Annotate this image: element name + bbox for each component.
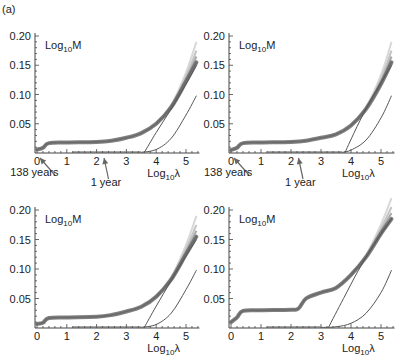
y-tick-label: 0.05 [10, 118, 31, 130]
annotation-138-years: 138 years [10, 166, 59, 178]
x-tick-label: 1 [258, 155, 264, 167]
y-tick-label: 0.10 [204, 263, 225, 275]
x-tick-label: 3 [123, 155, 129, 167]
y-tick-label: 0.10 [204, 89, 225, 101]
y-tick-label: 0.15 [204, 59, 225, 71]
x-tick-label: 3 [318, 330, 324, 342]
arrowhead-icon [297, 158, 303, 164]
data-spread [351, 198, 392, 275]
panel-label: (a) [2, 3, 15, 15]
annotation-1-year: 1 year [91, 176, 122, 188]
x-tick-label: 5 [378, 330, 384, 342]
x-tick-label: 3 [123, 330, 129, 342]
y-axis-label: Log10M [239, 213, 275, 228]
y-tick-label: 0.20 [204, 204, 225, 216]
y-tick-label: 0.05 [204, 118, 225, 130]
y-tick-label: 0.05 [10, 293, 31, 305]
x-tick-label: 2 [94, 330, 100, 342]
y-tick-label: 0.15 [204, 234, 225, 246]
x-tick-label: 5 [183, 330, 189, 342]
arrowhead-icon [102, 158, 108, 164]
y-axis-label: Log10M [45, 213, 81, 228]
x-axis-label: Log10λ [147, 167, 180, 182]
y-tick-label: 0.15 [10, 59, 31, 71]
y-tick-label: 0.20 [10, 204, 31, 216]
x-tick-label: 2 [94, 155, 100, 167]
y-axis-label: Log10M [239, 39, 275, 54]
x-axis-label: Log10λ [147, 342, 180, 357]
x-tick-label: 2 [288, 330, 294, 342]
y-tick-label: 0.05 [204, 293, 225, 305]
data-spread [156, 216, 196, 297]
x-tick-label: 2 [288, 155, 294, 167]
x-tick-label: 5 [183, 155, 189, 167]
panel-bottom-left: 0123450.050.100.150.20Log10MLog10λ [10, 204, 200, 357]
panel-bottom-right: 0123450.050.100.150.20Log10MLog10λ [204, 198, 395, 357]
x-tick-label: 0 [34, 330, 40, 342]
y-tick-label: 0.20 [10, 30, 31, 42]
panel-top-right: 0123450.050.100.150.20Log10MLog10λ138 ye… [204, 30, 395, 188]
annotation-138-years: 138 years [204, 166, 253, 178]
x-tick-label: 4 [348, 155, 354, 167]
x-tick-label: 0 [228, 330, 234, 342]
x-axis-label: Log10λ [342, 342, 375, 357]
data-band [231, 219, 392, 322]
x-tick-label: 4 [153, 155, 159, 167]
x-tick-label: 4 [153, 330, 159, 342]
y-axis-label: Log10M [45, 39, 81, 54]
panel-top-left: 0123450.050.100.150.20Log10MLog10λ138 ye… [10, 30, 200, 188]
x-tick-label: 1 [64, 155, 70, 167]
x-tick-label: 1 [64, 330, 70, 342]
annotation-1-year: 1 year [285, 176, 316, 188]
y-tick-label: 0.15 [10, 234, 31, 246]
data-spread [156, 42, 196, 124]
data-spread [351, 207, 392, 275]
data-band-core [231, 219, 392, 322]
reference-curve [321, 270, 392, 327]
x-tick-label: 3 [318, 155, 324, 167]
x-tick-label: 5 [378, 155, 384, 167]
figure-canvas: (a) 0123450.050.100.150.20Log10MLog10λ13… [0, 0, 405, 363]
x-tick-label: 4 [348, 330, 354, 342]
panels: 0123450.050.100.150.20Log10MLog10λ138 ye… [10, 30, 395, 357]
y-tick-label: 0.20 [204, 30, 225, 42]
y-tick-label: 0.10 [10, 89, 31, 101]
data-spread [351, 42, 392, 126]
x-axis-label: Log10λ [342, 167, 375, 182]
x-tick-label: 1 [258, 330, 264, 342]
y-tick-label: 0.10 [10, 263, 31, 275]
